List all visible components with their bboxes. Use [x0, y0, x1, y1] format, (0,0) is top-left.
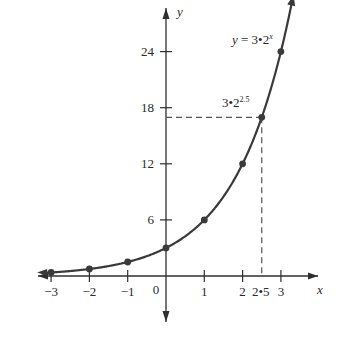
curve-arrow-up-icon	[287, 0, 295, 6]
equation-label: y = 3•2x	[230, 32, 273, 47]
marker-x-label: 2•5	[252, 284, 270, 299]
x-tick-label: 3	[278, 284, 285, 299]
data-point	[258, 114, 265, 121]
y-tick-label: 18	[141, 100, 154, 115]
y-axis-label: y	[175, 4, 183, 19]
exponential-graph: −3−2−112306121824yx3•22.52•5y = 3•2x	[0, 0, 343, 341]
x-tick-label: −2	[82, 284, 96, 299]
x-axis-arrow-right-icon	[308, 273, 318, 280]
data-point	[201, 217, 208, 224]
x-tick-label: 1	[201, 284, 208, 299]
x-tick-label: −3	[44, 284, 58, 299]
y-tick-label: 6	[148, 212, 155, 227]
x-axis-label: x	[316, 282, 323, 297]
y-axis-arrow-up-icon	[163, 8, 170, 19]
axes	[38, 8, 318, 322]
origin-label: 0	[153, 282, 160, 297]
x-tick-label: 2	[239, 284, 246, 299]
y-tick-label: 24	[141, 44, 155, 59]
data-point	[86, 266, 93, 273]
data-point	[124, 259, 131, 266]
data-point	[278, 48, 285, 55]
data-point	[239, 160, 246, 167]
dashed-guides	[166, 117, 262, 276]
y-axis-arrow-down-icon	[163, 311, 170, 322]
annotation-label: 3•22.5	[222, 95, 250, 110]
x-tick-label: −1	[121, 284, 135, 299]
data-point	[48, 269, 55, 276]
y-tick-label: 12	[141, 156, 154, 171]
data-point	[163, 245, 170, 252]
